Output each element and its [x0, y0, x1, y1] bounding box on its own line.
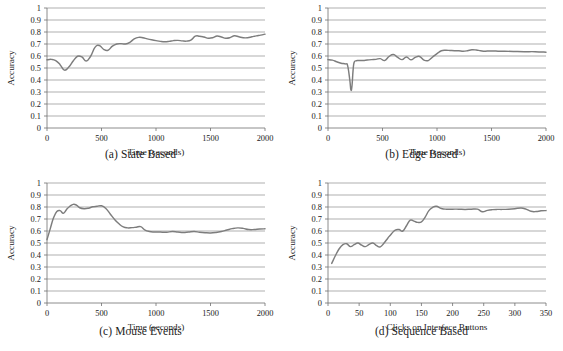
- x-tick-label: 2000: [257, 309, 274, 318]
- x-tick-label: 1000: [148, 134, 165, 143]
- x-tick-label: 500: [376, 134, 389, 143]
- y-tick-label: 0.5: [31, 64, 41, 73]
- x-tick-label: 0: [45, 309, 49, 318]
- y-tick-label: 0: [318, 124, 322, 133]
- y-tick-label: 0.8: [312, 28, 322, 37]
- y-tick-label: 0.7: [31, 215, 41, 224]
- x-tick-label: 1500: [202, 309, 219, 318]
- y-tick-label: 0.8: [31, 203, 41, 212]
- x-tick-label: 50: [355, 309, 363, 318]
- panel-state-based: 00.10.20.30.40.50.60.70.80.9105001000150…: [0, 0, 281, 175]
- y-tick-label: 1: [318, 4, 322, 13]
- x-tick-label: 200: [446, 309, 459, 318]
- y-tick-label: 0.5: [31, 239, 41, 248]
- y-tick-label: 0.9: [31, 16, 41, 25]
- y-tick-label: 0.3: [312, 263, 322, 272]
- panel-mouse-events: 00.10.20.30.40.50.60.70.80.9105001000150…: [0, 175, 281, 350]
- x-tick-label: 0: [326, 309, 330, 318]
- y-tick-label: 0.6: [31, 52, 41, 61]
- x-tick-label: 100: [384, 309, 397, 318]
- y-tick-label: 0.1: [31, 287, 41, 296]
- y-tick-label: 0.2: [312, 275, 322, 284]
- y-tick-label: 0.6: [312, 52, 322, 61]
- y-tick-label: 0.7: [312, 215, 322, 224]
- y-tick-label: 0.8: [31, 28, 41, 37]
- y-tick-label: 0.5: [312, 64, 322, 73]
- y-tick-label: 0.9: [31, 191, 41, 200]
- y-tick-label: 0.2: [31, 100, 41, 109]
- y-axis-title: Accuracy: [287, 50, 297, 86]
- chart-d-plot: 00.10.20.30.40.50.60.70.80.9105010015020…: [287, 179, 552, 332]
- y-tick-label: 0.6: [31, 227, 41, 236]
- y-tick-label: 1: [37, 4, 41, 13]
- y-tick-label: 0: [37, 299, 41, 308]
- chart-c-svg: 00.10.20.30.40.50.60.70.80.9105001000150…: [0, 175, 281, 350]
- y-tick-label: 0.5: [312, 239, 322, 248]
- y-tick-label: 0.4: [31, 251, 42, 260]
- y-tick-label: 0.2: [31, 275, 41, 284]
- series-line-accuracy: [47, 34, 265, 70]
- y-tick-label: 0.7: [31, 40, 41, 49]
- y-axis-title: Accuracy: [6, 225, 16, 261]
- x-tick-label: 0: [45, 134, 49, 143]
- caption-panel-c: (c) Mouse Events: [0, 325, 281, 337]
- y-tick-label: 0.1: [31, 112, 41, 121]
- caption-panel-d: (d) Sequence Based: [281, 325, 562, 337]
- y-tick-label: 0.9: [312, 16, 322, 25]
- x-tick-label: 350: [540, 309, 553, 318]
- chart-c-plot: 00.10.20.30.40.50.60.70.80.9105001000150…: [6, 179, 273, 332]
- y-tick-label: 0.6: [312, 227, 322, 236]
- y-tick-label: 0.9: [312, 191, 322, 200]
- x-tick-label: 1000: [429, 134, 446, 143]
- x-tick-label: 2000: [257, 134, 274, 143]
- y-tick-label: 0.3: [31, 88, 41, 97]
- x-tick-label: 2000: [538, 134, 555, 143]
- x-tick-label: 500: [95, 309, 108, 318]
- y-tick-label: 0.3: [31, 263, 41, 272]
- y-tick-label: 0: [37, 124, 41, 133]
- chart-a-plot: 00.10.20.30.40.50.60.70.80.9105001000150…: [6, 4, 273, 157]
- x-tick-label: 250: [477, 309, 490, 318]
- x-tick-label: 1500: [202, 134, 219, 143]
- figure-container: 00.10.20.30.40.50.60.70.80.9105001000150…: [0, 0, 563, 351]
- y-tick-label: 0.4: [312, 251, 323, 260]
- panel-edge-based: 00.10.20.30.40.50.60.70.80.9105001000150…: [281, 0, 562, 175]
- y-tick-label: 0.7: [312, 40, 322, 49]
- y-tick-label: 0: [318, 299, 322, 308]
- y-tick-label: 0.8: [312, 203, 322, 212]
- y-tick-label: 0.1: [312, 287, 322, 296]
- y-tick-label: 0.1: [312, 112, 322, 121]
- chart-d-svg: 00.10.20.30.40.50.60.70.80.9105010015020…: [281, 175, 563, 350]
- panel-sequence-based: 00.10.20.30.40.50.60.70.80.9105010015020…: [281, 175, 562, 350]
- x-tick-label: 300: [509, 309, 522, 318]
- x-tick-label: 150: [415, 309, 428, 318]
- y-tick-label: 0.4: [31, 76, 42, 85]
- x-tick-label: 0: [326, 134, 330, 143]
- y-tick-label: 1: [37, 179, 41, 188]
- caption-panel-b: (b) Edge Based: [281, 148, 562, 160]
- caption-panel-a: (a) State Based: [0, 148, 281, 160]
- x-tick-label: 1000: [148, 309, 165, 318]
- y-tick-label: 0.4: [312, 76, 323, 85]
- y-tick-label: 0.3: [312, 88, 322, 97]
- y-tick-label: 1: [318, 179, 322, 188]
- y-tick-label: 0.2: [312, 100, 322, 109]
- y-axis-title: Accuracy: [6, 50, 16, 86]
- y-axis-title: Accuracy: [287, 225, 297, 261]
- x-tick-label: 1500: [483, 134, 500, 143]
- chart-b-plot: 00.10.20.30.40.50.60.70.80.9105001000150…: [287, 4, 554, 157]
- series-line-accuracy: [47, 204, 265, 239]
- x-tick-label: 500: [95, 134, 108, 143]
